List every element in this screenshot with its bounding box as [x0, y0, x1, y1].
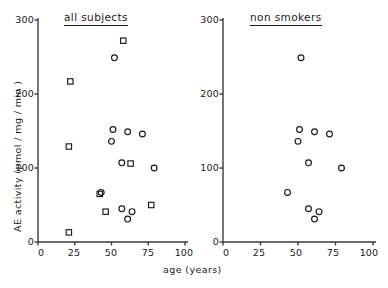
panel-all-subjects: all subjects 300 200 100 0 0 25 50 75 10… — [0, 0, 194, 288]
xtick-label-100-right: 100 — [359, 247, 379, 258]
ytick-label-0-left: 0 — [8, 236, 34, 247]
panel-non-smokers: non smokers 300 200 100 0 0 25 50 75 100 — [194, 0, 388, 288]
xtick-label-0-right: 0 — [220, 247, 232, 258]
x-axis-title: age (years) — [163, 264, 222, 275]
ytick-label-300-left: 300 — [8, 14, 34, 25]
xtick-label-50-right: 50 — [288, 247, 304, 258]
xtick-label-100-left: 100 — [174, 247, 194, 258]
ytick-label-0-right: 0 — [193, 236, 219, 247]
xtick-label-100-right-75: 75 — [325, 247, 341, 258]
xtick-label-0-left: 0 — [35, 247, 47, 258]
ytick-label-300-right: 300 — [193, 14, 219, 25]
plot-area-non-smokers — [194, 0, 388, 288]
xtick-label-75-left: 75 — [140, 247, 156, 258]
xtick-label-50-left: 50 — [103, 247, 119, 258]
xtick-label-25-left: 25 — [66, 247, 82, 258]
figure-scatter-ae-activity-vs-age: all subjects 300 200 100 0 0 25 50 75 10… — [0, 0, 388, 288]
y-axis-title: AE activity (pmol / mg / min ) — [12, 81, 23, 232]
ytick-label-200-right: 200 — [193, 88, 219, 99]
xtick-label-25-right: 25 — [251, 247, 267, 258]
ytick-label-100-right: 100 — [193, 162, 219, 173]
